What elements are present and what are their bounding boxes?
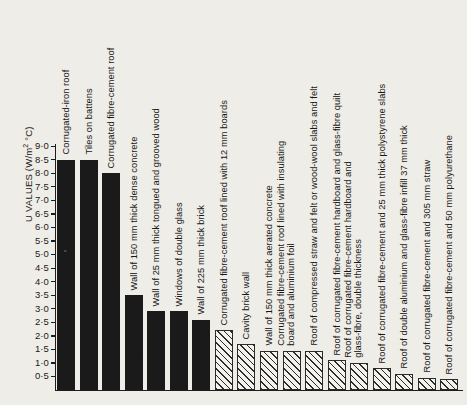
bar-group: Roof of corrugated fibre-cement and 305 … bbox=[418, 146, 436, 390]
y-axis-tick-label: 8·5 bbox=[35, 155, 49, 165]
bar bbox=[440, 379, 458, 390]
bar bbox=[350, 363, 368, 390]
bar bbox=[328, 360, 346, 390]
bar-group: Wall of 225 mm thick brick bbox=[192, 146, 210, 390]
bar-category-label: Roof of double aluminium and glass-fibre… bbox=[399, 126, 409, 369]
bar-group: Roof of double aluminium and glass-fibre… bbox=[395, 146, 413, 390]
bar bbox=[147, 311, 165, 390]
bar-group: Cavity brick wall bbox=[237, 146, 255, 390]
bar-group: Tiles on battens bbox=[80, 146, 98, 390]
bar bbox=[283, 351, 301, 390]
y-axis-tick-label: 9·0 bbox=[35, 141, 49, 151]
x-axis-line bbox=[55, 390, 463, 391]
y-axis-tick-label: 6·0 bbox=[35, 222, 49, 232]
y-axis-tick-label: 0·5 bbox=[35, 371, 49, 381]
bar-category-label: Roof of compressed straw and felt or woo… bbox=[309, 86, 319, 345]
bar bbox=[192, 320, 210, 390]
bar-group: Windows of double glass bbox=[170, 146, 188, 390]
bar bbox=[305, 351, 323, 390]
y-axis-tick-label: 7·0 bbox=[35, 195, 49, 205]
bar-group: Corrugated fibre-cement roof bbox=[102, 146, 120, 390]
bar bbox=[125, 295, 143, 390]
bar-category-label: Roof of corrugated fibre-cement and 25 m… bbox=[376, 84, 386, 364]
bar-category-label: Roof of corrugated fibre-cement hardboar… bbox=[331, 93, 341, 356]
bar-group: Wall of 150 mm thick dense concrete bbox=[125, 146, 143, 390]
bar-category-label: Windows of double glass bbox=[173, 202, 183, 306]
bar-group: Corrugated fibre-cement roof lined with … bbox=[283, 146, 301, 390]
y-axis-tick-label: 7·5 bbox=[35, 182, 49, 192]
bar-group: Roof of corrugated fibre-cement and 25 m… bbox=[373, 146, 391, 390]
bar bbox=[80, 160, 98, 390]
bar bbox=[418, 378, 436, 390]
bar-category-label: Corrugated-iron roof bbox=[61, 70, 71, 155]
bar bbox=[102, 173, 120, 390]
bar-category-label: Roof of corrugated fibre-cement and 305 … bbox=[421, 160, 431, 373]
y-axis-tick-label: 4·0 bbox=[35, 277, 49, 287]
bar bbox=[260, 351, 278, 390]
bar-category-label: Corrugated fibre-cement roof lined with … bbox=[218, 100, 228, 325]
plot-area: Corrugated-iron roofTiles on battensCorr… bbox=[57, 146, 463, 390]
y-axis-tick-label: 6·5 bbox=[35, 209, 49, 219]
y-axis-tick-label: 1·0 bbox=[35, 358, 49, 368]
bar-category-label: Wall of 150 mm thick dense concrete bbox=[128, 136, 138, 290]
bar-category-label: Tiles on battens bbox=[83, 88, 93, 154]
bar-category-label: Wall of 225 mm thick brick bbox=[196, 205, 206, 314]
bar-category-label: Roof of corrugated fibre-cement and 50 m… bbox=[444, 135, 454, 374]
y-axis-tick-label: 4·5 bbox=[35, 263, 49, 273]
bar-group: Roof of corrugated fibre-cement and 50 m… bbox=[440, 146, 458, 390]
y-axis-tick-label: 2·0 bbox=[35, 331, 49, 341]
bar bbox=[373, 368, 391, 390]
y-axis-tick-label: 5·5 bbox=[35, 236, 49, 246]
bar-group: Wall of 25 mm thick tongued and grooved … bbox=[147, 146, 165, 390]
y-axis-tick-label: 5·0 bbox=[35, 249, 49, 259]
bar-category-label: Corrugated fibre-cement roof lined with … bbox=[276, 141, 297, 346]
y-axis: 9·08·58·07·57·06·56·05·55·04·54·03·53·02… bbox=[24, 140, 56, 392]
bar-group: Roof of corrugated fibre-cement hardboar… bbox=[350, 146, 368, 390]
y-axis-tick-label: 1·5 bbox=[35, 344, 49, 354]
y-axis-tick-label: 8·0 bbox=[35, 168, 49, 178]
y-axis-tick-label: 2·5 bbox=[35, 317, 49, 327]
bar-category-label: Wall of 25 mm thick tongued and grooved … bbox=[151, 108, 161, 306]
bar-group: Roof of compressed straw and felt or woo… bbox=[305, 146, 323, 390]
bar bbox=[395, 374, 413, 390]
bar-category-label: Roof of corrugated fibre-cement hardboar… bbox=[343, 161, 364, 358]
bar-category-label: Corrugated fibre-cement roof bbox=[106, 47, 116, 168]
bar-group: Corrugated-iron roof bbox=[57, 146, 75, 390]
bar-group: Corrugated fibre-cement roof lined with … bbox=[215, 146, 233, 390]
bar bbox=[237, 344, 255, 390]
u-values-bar-chart: U VALUES (W/m2 °C) 9·08·58·07·57·06·56·0… bbox=[0, 0, 467, 405]
bar bbox=[57, 160, 75, 390]
bar-category-label: Wall of 150 mm thick aerated concrete bbox=[264, 186, 274, 346]
y-axis-tick-label: 3·0 bbox=[35, 304, 49, 314]
y-axis-tick-label: 3·5 bbox=[35, 290, 49, 300]
bar bbox=[170, 311, 188, 390]
bar bbox=[215, 330, 233, 390]
bar-category-label: Cavity brick wall bbox=[241, 271, 251, 339]
